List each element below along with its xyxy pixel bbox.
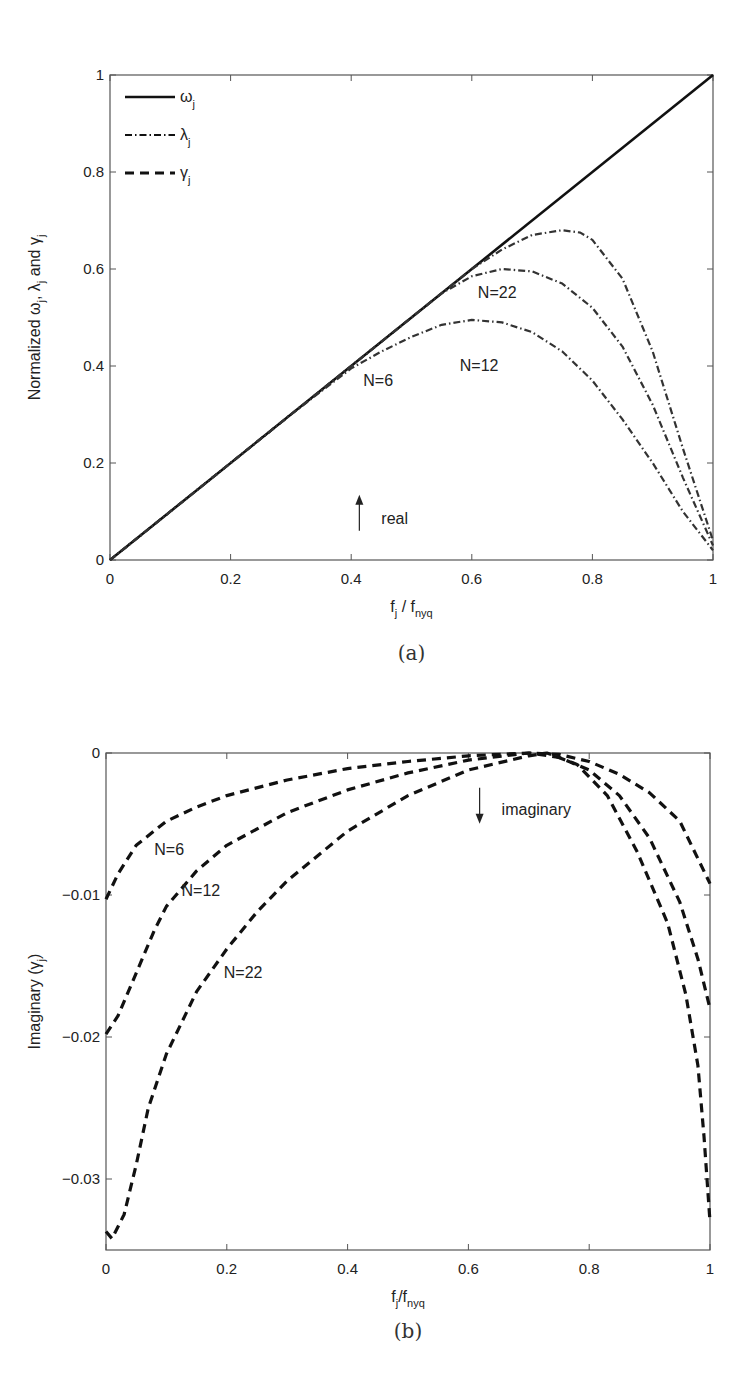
arrow-down-icon [476,814,484,824]
x-tick-label: 0.8 [579,1260,600,1277]
y-tick-label: −0.03 [62,1170,100,1187]
annotation-label: N=12 [460,357,499,374]
annotation-label: real [381,510,408,527]
y-tick-label: −0.01 [62,886,100,903]
x-tick-label: 0.6 [461,570,482,587]
y-tick-label: 0 [96,551,104,568]
y-tick-label: 0.8 [83,163,104,180]
annotation-label: N=12 [182,882,221,899]
x-tick-label: 0.2 [216,1260,237,1277]
x-axis-label: fj​ / fnyq​ [390,598,432,619]
series-line [106,753,710,899]
y-tick-label: 1 [96,66,104,83]
legend-label: ωj [180,88,195,110]
y-axis-label: Normalized ωj​, λj​ and γj​ [26,235,47,401]
x-axis-label: fj​/fnyq​ [391,1288,425,1309]
y-tick-label: −0.02 [62,1028,100,1045]
annotation-label: N=22 [478,284,517,301]
x-tick-label: 0 [102,1260,110,1277]
y-tick-label: 0.2 [83,454,104,471]
x-tick-label: 1 [709,570,717,587]
series-line [110,230,713,560]
annotation-label: N=6 [154,841,184,858]
x-tick-label: 0.4 [341,570,362,587]
y-tick-label: 0.6 [83,260,104,277]
x-tick-label: 1 [706,1260,714,1277]
figure-caption: (a) [398,641,426,665]
annotation-label: imaginary [502,801,571,818]
series-line [110,320,713,560]
x-tick-label: 0.6 [458,1260,479,1277]
x-tick-label: 0.4 [337,1260,358,1277]
annotation-label: N=6 [363,372,393,389]
y-tick-label: 0 [92,744,100,761]
series-line [106,753,710,1239]
plot-frame [106,753,710,1250]
x-tick-label: 0.2 [220,570,241,587]
arrow-up-icon [355,495,363,505]
annotation-label: N=22 [224,964,263,981]
chart-a: 00.20.40.60.8100.20.40.60.81ωjλjγjN=22N=… [26,66,717,665]
legend-label: λj [180,126,190,148]
figure-caption: (b) [394,1319,422,1343]
legend-label: γj [180,164,190,186]
y-axis-label: Imaginary (γj​) [26,954,47,1050]
y-tick-label: 0.4 [83,357,104,374]
figure: 00.20.40.60.8100.20.40.60.81ωjλjγjN=22N=… [0,0,744,1392]
series-line [110,269,713,560]
chart-b: 00.20.40.60.810−0.01−0.02−0.03N=6N=12N=2… [26,744,714,1343]
x-tick-label: 0 [106,570,114,587]
x-tick-label: 0.8 [582,570,603,587]
